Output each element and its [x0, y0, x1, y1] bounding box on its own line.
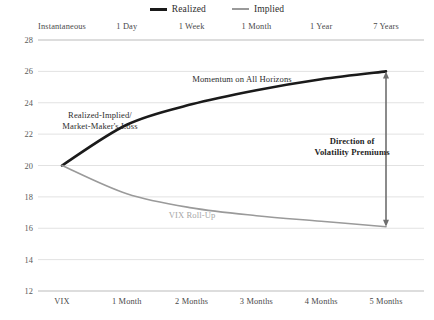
y-axis-tick-label: 20	[24, 161, 33, 170]
annotation-line: Momentum on All Horizons	[192, 74, 292, 85]
y-axis-tick-label: 26	[24, 67, 33, 76]
y-axis-tick-label: 16	[24, 224, 33, 233]
top-axis-tick-label: 7 Years	[373, 22, 399, 31]
annotation-line: Market-Maker's Loss	[62, 121, 137, 132]
arrow-head-bottom	[383, 220, 389, 227]
top-axis-tick-label: 1 Week	[179, 22, 205, 31]
bottom-axis-tick-label: 5 Months	[369, 297, 402, 306]
y-axis-tick-label: 14	[24, 255, 33, 264]
bottom-axis-tick-label: VIX	[54, 297, 69, 306]
top-axis-tick-label: 1 Year	[310, 22, 332, 31]
chart-canvas	[0, 0, 434, 320]
y-axis-tick-label: 22	[24, 130, 33, 139]
bottom-axis-tick-label: 4 Months	[305, 297, 338, 306]
y-axis-tick-label: 24	[24, 98, 33, 107]
bottom-axis-tick-label: 2 Months	[175, 297, 208, 306]
y-axis-tick-label: 18	[24, 192, 33, 201]
y-axis-tick-label: 28	[24, 36, 33, 45]
realized-implied-annotation: Realized-Implied/Market-Maker's Loss	[62, 110, 137, 132]
volatility-term-structure-chart: RealizedImplied 282624222018161412 Insta…	[0, 0, 434, 320]
annotation-line: Realized-Implied/	[62, 110, 137, 121]
annotation-line: Volatility Premiums	[314, 147, 389, 158]
top-axis-tick-label: 1 Month	[242, 22, 272, 31]
bottom-axis-tick-label: 1 Month	[112, 297, 142, 306]
annotation-line: Direction of	[314, 136, 389, 147]
top-axis-tick-label: 1 Day	[116, 22, 137, 31]
direction-of-volatility-premiums-annotation: Direction ofVolatility Premiums	[314, 136, 389, 158]
bottom-axis-tick-label: 3 Months	[240, 297, 273, 306]
series-line-implied	[62, 166, 386, 227]
annotation-line: VIX Roll-Up	[169, 210, 216, 221]
y-axis-tick-label: 12	[24, 287, 33, 296]
vix-roll-up-annotation: VIX Roll-Up	[169, 210, 216, 221]
top-axis-tick-label: Instantaneous	[38, 22, 86, 31]
momentum-annotation: Momentum on All Horizons	[192, 74, 292, 85]
